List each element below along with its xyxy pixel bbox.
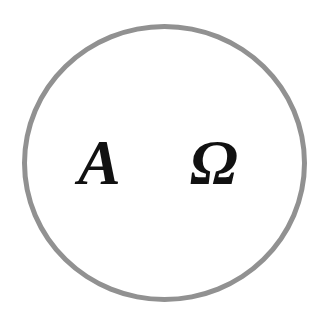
letter-a: A xyxy=(78,131,121,195)
letter-omega: Ω xyxy=(190,131,238,195)
circle-outline xyxy=(22,24,307,302)
